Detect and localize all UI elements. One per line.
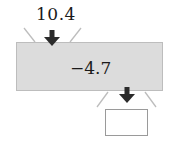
output-arrow-icon (119, 87, 135, 103)
output-answer-box[interactable] (105, 109, 148, 136)
diagram-lines (0, 0, 175, 151)
input-arrow-icon (44, 30, 60, 46)
